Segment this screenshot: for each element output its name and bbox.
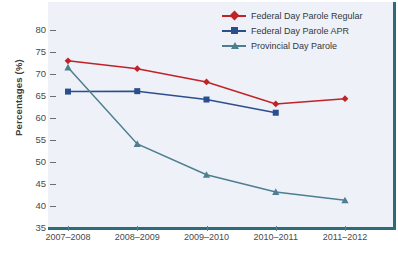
chart-legend: Federal Day Parole Regular Federal Day P…: [222, 8, 363, 53]
data-point-marker[interactable]: [342, 95, 349, 102]
legend-swatch: [222, 40, 246, 51]
data-point-marker[interactable]: [203, 171, 210, 178]
data-point-marker[interactable]: [203, 79, 210, 86]
data-point-marker[interactable]: [64, 64, 71, 71]
data-point-marker[interactable]: [134, 88, 140, 94]
data-point-marker[interactable]: [204, 97, 210, 103]
series-line: [68, 67, 345, 200]
triangle-icon: [231, 42, 239, 49]
data-point-marker[interactable]: [65, 57, 72, 64]
data-point-marker[interactable]: [65, 89, 71, 95]
diamond-icon: [230, 11, 240, 21]
data-point-marker[interactable]: [273, 110, 279, 116]
legend-item-label: Provincial Day Parole: [251, 41, 337, 51]
data-point-marker[interactable]: [272, 101, 279, 108]
square-icon: [231, 27, 238, 34]
legend-item-label: Federal Day Parole Regular: [251, 11, 363, 21]
legend-swatch: [222, 10, 246, 21]
legend-item-label: Federal Day Parole APR: [251, 26, 349, 36]
legend-item-federal-day-parole-regular[interactable]: Federal Day Parole Regular: [222, 8, 363, 23]
legend-item-federal-day-parole-apr[interactable]: Federal Day Parole APR: [222, 23, 363, 38]
legend-item-provincial-day-parole[interactable]: Provincial Day Parole: [222, 38, 363, 53]
line-chart-figure: Percentages (%) 80757065605550454035 200…: [0, 0, 398, 255]
legend-swatch: [222, 25, 246, 36]
data-point-marker[interactable]: [134, 65, 141, 72]
